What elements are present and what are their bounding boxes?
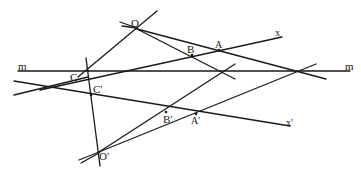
point-C-prime (90, 94, 93, 97)
label-C-prime: C′ (93, 84, 103, 95)
label-O-prime: O′ (99, 151, 109, 162)
label-O: O (131, 18, 139, 29)
projective-geometry-diagram (0, 0, 361, 179)
label-A-prime: A′ (191, 116, 200, 126)
label-B: B (187, 44, 194, 55)
point-C (87, 70, 90, 73)
label-m-right: m (345, 61, 354, 72)
line-O-prime-B-prime (99, 64, 235, 152)
label-m-left: m (18, 61, 27, 72)
line-O-prime-A-prime (99, 64, 316, 152)
line-C-C-prime (86, 58, 100, 166)
label-x: x (275, 28, 280, 38)
label-B-prime: B′ (163, 114, 173, 125)
label-A: A (215, 40, 222, 50)
ray-x-prime (14, 81, 290, 126)
label-C: C (70, 72, 77, 83)
label-x-prime: x′ (286, 118, 293, 128)
